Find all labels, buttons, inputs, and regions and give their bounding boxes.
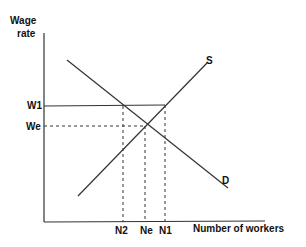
demand-label: D (222, 176, 229, 186)
x-axis (44, 221, 265, 222)
diagram-canvas (0, 0, 306, 247)
we-label: We (26, 122, 41, 132)
w1-label: W1 (27, 101, 42, 111)
supply-curve (78, 63, 207, 196)
w1-line (44, 105, 165, 106)
supply-label: S (206, 56, 213, 66)
ne-label: Ne (140, 226, 153, 236)
y-axis-label-rate: rate (17, 29, 35, 39)
y-axis-label-wage: Wage (10, 16, 36, 26)
demand-curve (67, 60, 228, 188)
n2-label: N2 (115, 226, 128, 236)
n1-label: N1 (159, 226, 172, 236)
x-axis-label: Number of workers (193, 224, 284, 234)
